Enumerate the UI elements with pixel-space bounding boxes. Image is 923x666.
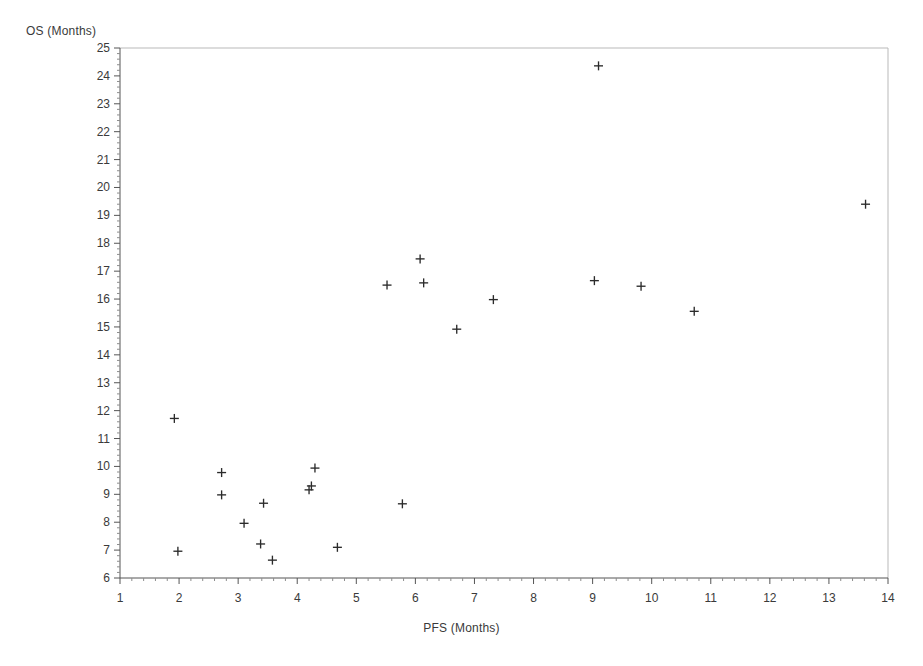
x-tick-label: 2 [176, 591, 183, 605]
x-tick-label: 8 [530, 591, 537, 605]
y-tick-label: 17 [97, 264, 111, 278]
plot-canvas: 678910111213141516171819202122232425 123… [0, 0, 923, 666]
y-tick-label: 25 [97, 41, 111, 55]
data-point-marker [217, 490, 226, 499]
x-tick-label: 7 [471, 591, 478, 605]
y-tick-label: 10 [97, 459, 111, 473]
y-tick-label: 19 [97, 208, 111, 222]
data-point-marker [268, 556, 277, 565]
plot-frame [120, 48, 888, 578]
y-tick-label: 11 [98, 432, 111, 446]
data-point-marker [383, 281, 392, 290]
y-tick-label: 14 [97, 348, 111, 362]
x-tick-label: 11 [705, 591, 718, 605]
data-point-marker [419, 278, 428, 287]
x-tick-label: 1 [117, 591, 124, 605]
data-point-marker [861, 200, 870, 209]
data-point-series [170, 61, 870, 564]
y-tick-label: 16 [97, 292, 111, 306]
data-point-marker [452, 325, 461, 334]
data-point-marker [256, 539, 265, 548]
y-tick-label: 23 [97, 97, 111, 111]
x-tick-label: 13 [822, 591, 836, 605]
y-tick-label: 6 [103, 571, 110, 585]
data-point-marker [416, 254, 425, 263]
y-tick-label: 8 [103, 515, 110, 529]
x-tick-label: 10 [645, 591, 659, 605]
x-tick-label: 5 [353, 591, 360, 605]
y-tick-label: 9 [103, 487, 110, 501]
scatter-plot-figure: OS (Months) PFS (Months) 678910111213141… [0, 0, 923, 666]
y-tick-label: 13 [97, 376, 111, 390]
x-tick-label: 4 [294, 591, 301, 605]
y-tick-label: 18 [97, 236, 111, 250]
x-axis-ticks [120, 578, 888, 584]
data-point-marker [489, 295, 498, 304]
data-point-marker [173, 547, 182, 556]
y-axis-ticks [114, 48, 120, 578]
data-point-marker [333, 543, 342, 552]
data-point-marker [594, 61, 603, 70]
y-tick-label: 7 [103, 543, 110, 557]
data-point-marker [217, 468, 226, 477]
data-point-marker [170, 414, 179, 423]
data-point-marker [259, 499, 268, 508]
y-tick-label: 21 [97, 153, 111, 167]
y-tick-label: 22 [97, 125, 111, 139]
x-tick-label: 3 [235, 591, 242, 605]
y-tick-label: 15 [97, 320, 111, 334]
y-tick-label: 24 [97, 69, 111, 83]
data-point-marker [398, 499, 407, 508]
data-point-marker [240, 519, 249, 528]
data-point-marker [307, 481, 316, 490]
x-tick-label: 6 [412, 591, 419, 605]
y-axis-tick-labels: 678910111213141516171819202122232425 [97, 41, 111, 585]
data-point-marker [590, 276, 599, 285]
y-tick-label: 20 [97, 180, 111, 194]
data-point-marker [305, 485, 314, 494]
x-tick-label: 9 [589, 591, 596, 605]
y-tick-label: 12 [97, 404, 111, 418]
data-point-marker [637, 282, 646, 291]
data-point-marker [310, 464, 319, 473]
x-tick-label: 12 [763, 591, 777, 605]
x-axis-tick-labels: 1234567891011121314 [117, 591, 895, 605]
data-point-marker [690, 307, 699, 316]
x-tick-label: 14 [881, 591, 895, 605]
